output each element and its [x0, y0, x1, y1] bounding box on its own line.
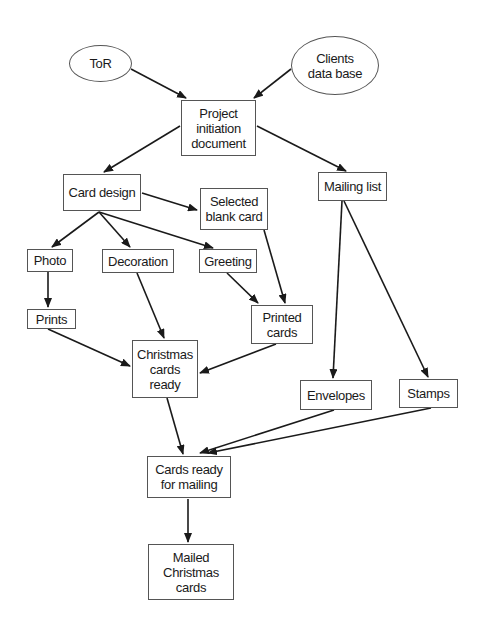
node-label: Selected blank card: [206, 194, 263, 224]
node-xmas-ready: Christmas cards ready: [132, 340, 198, 398]
arrow-card-design-to-greeting: [99, 212, 213, 248]
arrow-greeting-to-printed: [227, 273, 258, 303]
arrow-pid-to-mailing: [257, 126, 346, 171]
node-label: Printed cards: [262, 310, 301, 340]
node-label: Prints: [36, 312, 67, 327]
node-label: Stamps: [407, 386, 449, 401]
arrow-mailing-to-stamps: [344, 201, 428, 377]
node-envelopes: Envelopes: [300, 380, 372, 410]
arrow-tor-to-pid: [131, 69, 186, 98]
arrow-decoration-to-xmas-ready: [137, 273, 164, 338]
arrow-card-design-to-selected: [142, 193, 197, 210]
node-stamps: Stamps: [399, 379, 458, 408]
node-label: Christmas cards ready: [137, 347, 193, 392]
node-pid: Project initiation document: [181, 100, 256, 156]
node-label: Cards ready for mailing: [155, 462, 223, 492]
node-label: Project initiation document: [191, 106, 246, 151]
node-tor: ToR: [69, 45, 132, 82]
arrow-printed-to-xmas-ready: [200, 344, 276, 373]
node-photo: Photo: [27, 249, 73, 272]
arrow-xmas-ready-to-ready-mail: [167, 398, 183, 454]
node-label: Clients data base: [308, 51, 362, 81]
node-clients: Clients data base: [291, 36, 379, 95]
node-label: Decoration: [108, 254, 168, 269]
node-label: Mailed Christmas cards: [163, 550, 219, 595]
node-printed: Printed cards: [251, 305, 313, 344]
node-mailing: Mailing list: [318, 172, 387, 201]
node-ready-mail: Cards ready for mailing: [147, 456, 231, 498]
node-label: Greeting: [204, 254, 251, 269]
node-label: Mailing list: [324, 179, 381, 194]
arrow-card-design-to-photo: [52, 212, 99, 247]
node-label: ToR: [89, 56, 111, 71]
arrow-pid-to-card-design: [104, 126, 180, 172]
node-mailed: Mailed Christmas cards: [148, 544, 234, 600]
node-selected: Selected blank card: [200, 188, 268, 230]
flowchart-canvas: ToRClients data baseProject initiation d…: [0, 0, 483, 633]
node-decoration: Decoration: [102, 249, 174, 273]
node-prints: Prints: [27, 309, 76, 329]
node-card-design: Card design: [63, 174, 141, 211]
node-label: Envelopes: [307, 388, 365, 403]
arrow-prints-to-xmas-ready: [48, 329, 130, 366]
arrow-clients-to-pid: [254, 69, 291, 98]
arrow-selected-to-printed: [264, 230, 285, 303]
arrow-mailing-to-envelopes: [333, 201, 342, 378]
node-label: Photo: [34, 253, 66, 268]
node-label: Card design: [69, 185, 136, 200]
node-greeting: Greeting: [199, 249, 257, 273]
